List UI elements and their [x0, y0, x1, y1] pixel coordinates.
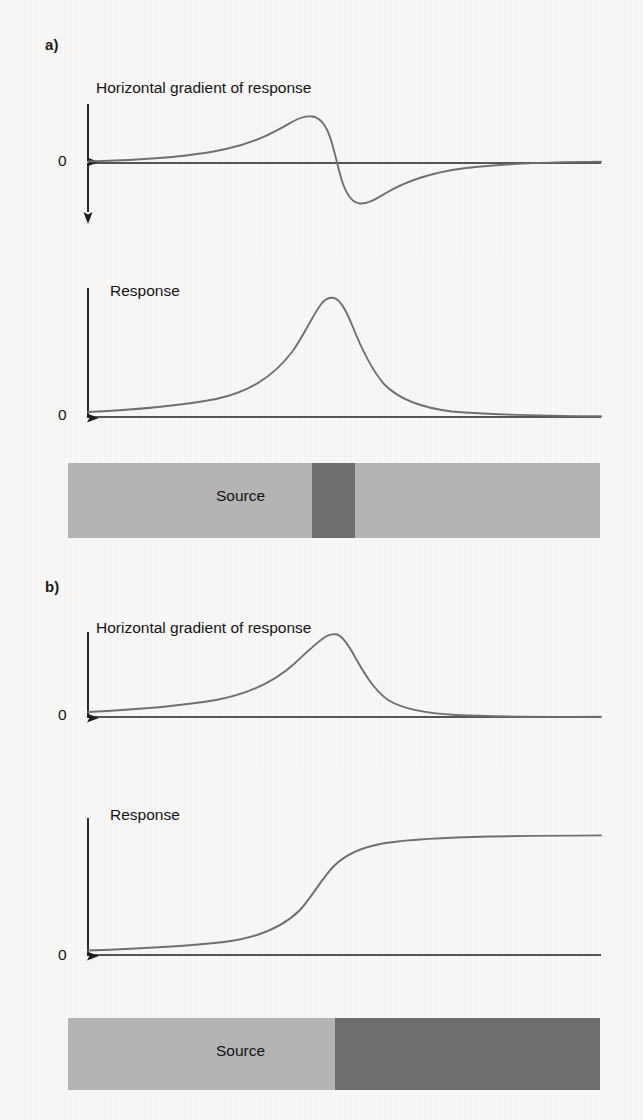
figure-vector-layer [0, 0, 643, 1120]
panel-b-response-axes [88, 818, 601, 956]
panel-a-response-curve [88, 298, 601, 416]
panel-b-gradient-curve [88, 634, 601, 717]
panel-a-gradient-yaxis-down-arrowhead [84, 212, 93, 224]
figure-root: a) Horizontal gradient of response 0 Res… [0, 0, 643, 1120]
panel-b-gradient-axes [88, 632, 601, 718]
panel-b-response-curve [88, 835, 601, 950]
panel-a-gradient-curve [88, 116, 601, 203]
